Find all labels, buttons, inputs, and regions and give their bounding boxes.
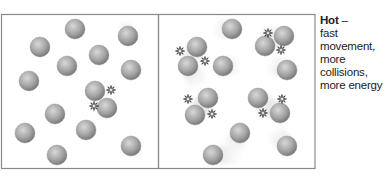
particle: [76, 120, 96, 140]
particle: [118, 26, 138, 46]
particle: [178, 56, 198, 76]
particle: [255, 36, 275, 56]
particle: [277, 60, 297, 80]
particle: [85, 81, 105, 101]
particle: [57, 56, 77, 76]
particle: [187, 37, 207, 57]
caption: Hot – fast movement, more collisions, mo…: [320, 14, 392, 92]
particle: [274, 26, 294, 46]
particle: [222, 19, 242, 39]
particle: [277, 136, 297, 156]
collision-icon: [277, 46, 286, 55]
collision-icon: [176, 47, 185, 56]
particle: [230, 123, 250, 143]
particle: [203, 145, 223, 165]
particle: [30, 37, 50, 57]
particle: [121, 136, 141, 156]
particle: [47, 145, 67, 165]
particle: [15, 123, 35, 143]
particles: [15, 19, 297, 165]
collision-icon: [90, 102, 99, 111]
particle: [185, 105, 205, 125]
caption-line-1: fast movement,: [320, 27, 392, 53]
particle: [45, 104, 65, 124]
caption-line-2: more collisions,: [320, 53, 392, 79]
particle: [121, 60, 141, 80]
particle: [65, 19, 85, 39]
particle: [198, 88, 218, 108]
caption-title: Hot: [320, 14, 339, 26]
particle: [19, 71, 39, 91]
collision-icon: [184, 95, 193, 104]
collision-icon: [107, 86, 116, 95]
particle: [270, 103, 290, 123]
collision-icon: [208, 110, 217, 119]
particle: [89, 45, 109, 65]
particle: [248, 88, 268, 108]
particle: [213, 56, 233, 76]
caption-line-3: more energy: [320, 79, 392, 92]
collision-icon: [278, 95, 287, 104]
collision-icon: [201, 57, 210, 66]
particle: [97, 98, 117, 118]
caption-dash: –: [339, 14, 348, 26]
